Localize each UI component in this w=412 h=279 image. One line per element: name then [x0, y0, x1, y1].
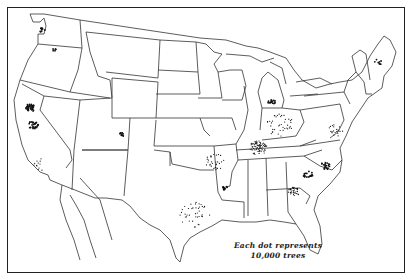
tree-dot — [274, 115, 275, 116]
tree-dot — [254, 154, 255, 155]
tree-dot — [286, 127, 287, 128]
tree-dot — [283, 130, 284, 131]
tree-dot — [207, 159, 208, 160]
tree-dot — [263, 143, 264, 144]
tree-dot — [264, 150, 265, 151]
tree-dot — [250, 149, 251, 150]
tree-dot — [252, 144, 253, 145]
tree-dot — [36, 165, 37, 166]
tree-dot — [25, 108, 27, 110]
tree-dot — [217, 161, 218, 162]
tree-dot — [262, 146, 263, 147]
tree-dot — [342, 131, 343, 132]
tree-dot — [333, 124, 334, 125]
tree-dot — [256, 142, 257, 143]
tree-dot — [28, 105, 30, 107]
tree-dot — [34, 123, 36, 125]
tree-dot — [288, 189, 289, 190]
tree-dot — [290, 193, 291, 194]
tree-dot — [293, 194, 294, 195]
tree-dot — [294, 195, 295, 196]
tree-dot — [207, 162, 208, 163]
tree-dot — [29, 107, 31, 109]
tree-dot — [189, 220, 190, 221]
tree-dot — [290, 120, 291, 121]
tree-dot — [256, 143, 257, 144]
tree-dot — [297, 189, 298, 190]
tree-dot — [199, 206, 200, 207]
tree-dot — [39, 31, 41, 33]
tree-dot — [280, 116, 281, 117]
tree-dot — [308, 171, 310, 173]
tree-dot — [251, 144, 252, 145]
tree-dot — [209, 215, 210, 216]
tree-dot — [272, 121, 273, 122]
tree-dot — [29, 121, 31, 123]
tree-dot — [339, 131, 340, 132]
tree-dot — [211, 166, 212, 167]
tree-dot — [194, 226, 195, 227]
tree-dot — [212, 163, 213, 164]
tree-dot — [261, 147, 262, 148]
tree-dot — [291, 191, 292, 192]
tree-dot — [282, 127, 283, 128]
tree-dot — [34, 163, 35, 164]
tree-dot — [190, 204, 191, 205]
tree-dot — [257, 151, 258, 152]
tree-dot — [278, 134, 279, 135]
tree-dot — [259, 142, 260, 143]
tree-dot — [335, 132, 336, 133]
tree-dot — [252, 146, 253, 147]
tree-dot — [258, 149, 259, 150]
tree-dot — [202, 216, 203, 217]
tree-dot — [311, 172, 313, 174]
tree-dot — [31, 124, 33, 126]
tree-dot — [272, 132, 273, 133]
tree-dot — [294, 189, 295, 190]
tree-dot — [330, 126, 331, 127]
tree-dot — [38, 163, 39, 164]
tree-dot — [271, 101, 273, 103]
tree-dot — [213, 168, 214, 169]
tree-dot — [293, 192, 294, 193]
tree-dot — [215, 169, 216, 170]
tree-dot — [33, 105, 35, 107]
tree-dot — [312, 175, 314, 177]
tree-dot — [40, 28, 42, 30]
tree-dot — [185, 214, 186, 215]
tree-dot — [259, 150, 260, 151]
tree-dot — [254, 146, 255, 147]
tree-dot — [306, 173, 308, 175]
tree-dot — [199, 216, 200, 217]
tree-dot — [185, 216, 186, 217]
tree-dot — [263, 145, 264, 146]
tree-dot — [199, 203, 200, 204]
tree-dot — [195, 203, 196, 204]
tree-dot — [220, 155, 221, 156]
tree-dot — [289, 127, 290, 128]
tree-dot — [254, 149, 255, 150]
tree-dot — [274, 100, 276, 102]
tree-dot — [251, 148, 252, 149]
tree-dot — [264, 144, 265, 145]
tree-dot — [333, 126, 334, 127]
tree-dot — [326, 162, 328, 164]
tree-dot — [284, 122, 285, 123]
tree-dot — [207, 157, 208, 158]
tree-dot — [328, 165, 330, 167]
tree-dot — [279, 114, 280, 115]
tree-dot — [290, 192, 291, 193]
tree-dot — [291, 119, 292, 120]
tree-dot — [211, 161, 212, 162]
tree-dot — [265, 145, 266, 146]
tree-dot — [36, 161, 37, 162]
tree-dot — [38, 167, 39, 168]
tree-dot — [338, 130, 339, 131]
tree-dot — [331, 132, 332, 133]
tree-dot — [276, 116, 277, 117]
tree-dot — [202, 206, 203, 207]
tree-dot — [182, 209, 183, 210]
tree-dot — [40, 158, 41, 159]
tree-dot — [28, 109, 30, 111]
tree-dot — [259, 140, 260, 141]
